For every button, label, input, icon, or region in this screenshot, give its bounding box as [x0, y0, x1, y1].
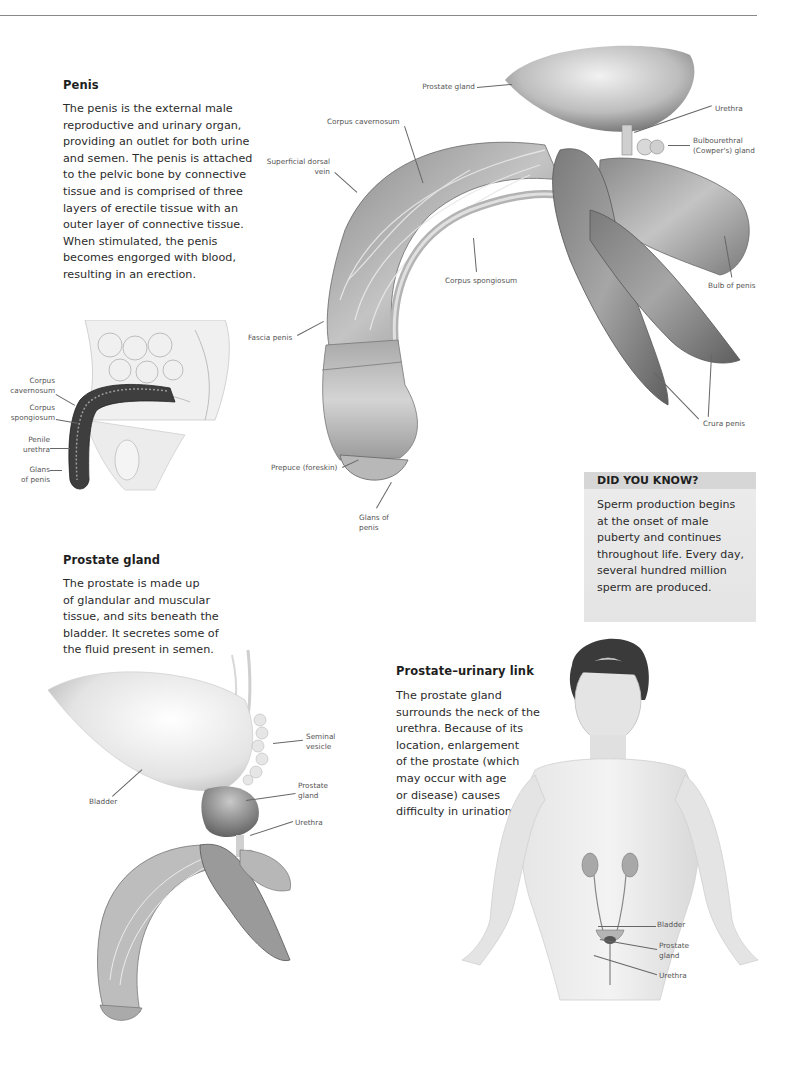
leader-line — [668, 145, 690, 146]
text-line: to the pelvic bone by connective — [63, 167, 293, 184]
text-line: of glandular and muscular — [63, 593, 263, 610]
label-prepuce: Prepuce (foreskin) — [271, 463, 337, 473]
label-crura-penis: Crura penis — [703, 419, 745, 429]
label-side-glans-1: Glans — [8, 465, 50, 475]
label-side-cavernosum-2: cavernosum — [8, 386, 55, 396]
label-bulb-of-penis: Bulb of penis — [708, 281, 756, 291]
label-side-urethra-2: urethra — [8, 445, 50, 455]
bladder-prostate-illustration — [40, 640, 320, 1030]
label-prostate-figure-2: gland — [659, 951, 679, 961]
male-figure-illustration — [440, 630, 760, 1050]
text-line: sperm are produced. — [597, 580, 752, 597]
did-you-know-text: Sperm production begins at the onset of … — [597, 497, 752, 596]
text-line: throughout life. Every day, — [597, 547, 752, 564]
top-rule — [0, 15, 757, 16]
did-you-know-title: DID YOU KNOW? — [597, 474, 698, 487]
label-superficial-dorsal-2: vein — [262, 167, 330, 177]
label-urethra-figure: Urethra — [659, 971, 687, 981]
text-line: outer layer of connective tissue. — [63, 217, 293, 234]
label-side-spongiosum-2: spongiosum — [8, 413, 55, 423]
label-corpus-spongiosum: Corpus spongiosum — [445, 276, 517, 286]
label-side-glans-2: of penis — [8, 475, 50, 485]
did-you-know-box: DID YOU KNOW? Sperm production begins at… — [584, 472, 756, 622]
label-prostate-gland-2-1: Prostate — [298, 781, 328, 791]
leader-line — [50, 448, 70, 449]
label-bladder-figure: Bladder — [657, 920, 685, 930]
label-superficial-dorsal-1: Superficial dorsal — [262, 157, 330, 167]
label-glans-of-penis-2: penis — [359, 523, 379, 533]
label-bladder: Bladder — [89, 797, 117, 807]
text-line: When stimulated, the penis — [63, 234, 293, 251]
label-side-urethra-1: Penile — [8, 435, 50, 445]
text-line: puberty and continues — [597, 530, 752, 547]
text-line: tissue, and sits beneath the — [63, 609, 263, 626]
label-bulbourethral-2: (Cowper's) gland — [693, 146, 755, 156]
leader-line — [598, 926, 656, 927]
text-line: and semen. The penis is attached — [63, 151, 293, 168]
label-side-spongiosum-1: Corpus — [8, 403, 55, 413]
text-line: several hundred million — [597, 563, 752, 580]
label-prostate-gland: Prostate gland — [395, 82, 475, 92]
label-side-cavernosum-1: Corpus — [8, 376, 55, 386]
label-prostate-gland-2-2: gland — [298, 791, 318, 801]
label-urethra: Urethra — [715, 104, 743, 114]
text-line: layers of erectile tissue with an — [63, 201, 293, 218]
text-line: The prostate is made up — [63, 576, 263, 593]
sagittal-section-illustration — [55, 320, 235, 495]
text-line: tissue and is comprised of three — [63, 184, 293, 201]
penis-anatomy-illustration — [290, 30, 760, 500]
section-title-penis: Penis — [63, 78, 99, 92]
label-corpus-cavernosum: Corpus cavernosum — [327, 117, 400, 127]
text-line: Sperm production begins — [597, 497, 752, 514]
label-bulbourethral-1: Bulbourethral — [693, 136, 743, 146]
text-line: at the onset of male — [597, 514, 752, 531]
penis-description: The penis is the external male reproduct… — [63, 101, 293, 284]
label-seminal-vesicle-2: vesicle — [306, 742, 331, 752]
label-urethra-2: Urethra — [295, 818, 323, 828]
text-line: becomes engorged with blood, — [63, 250, 293, 267]
label-prostate-figure-1: Prostate — [659, 941, 689, 951]
label-glans-of-penis-1: Glans of — [359, 513, 389, 523]
section-title-prostate-gland: Prostate gland — [63, 553, 160, 567]
leader-line — [50, 470, 62, 471]
text-line: resulting in an erection. — [63, 267, 293, 284]
text-line: reproductive and urinary organ, — [63, 118, 293, 135]
text-line: The penis is the external male — [63, 101, 293, 118]
label-fascia-penis: Fascia penis — [248, 333, 292, 343]
text-line: providing an outlet for both urine — [63, 134, 293, 151]
label-seminal-vesicle-1: Seminal — [306, 732, 335, 742]
